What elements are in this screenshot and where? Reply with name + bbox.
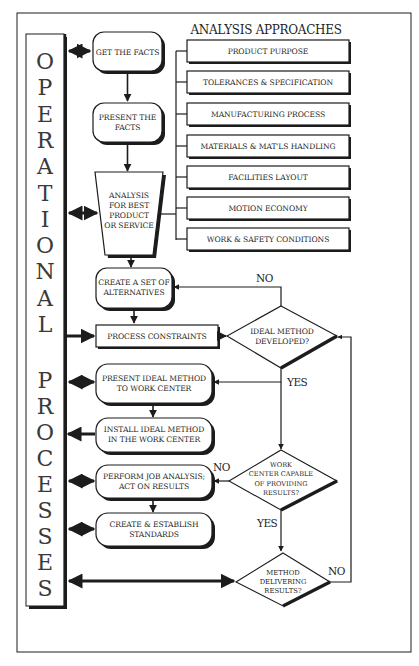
side-title-letter: L xyxy=(38,312,53,337)
present-facts-label-line1: PRESENT THE xyxy=(99,113,156,122)
side-title-letter: S xyxy=(37,576,52,601)
analysis-approaches-list: PRODUCT PURPOSETOLERANCES & SPECIFICATIO… xyxy=(176,40,351,252)
analysis-approach-item[interactable]: MANUFACTURING PROCESS xyxy=(176,103,351,127)
method-delivering-line3: RESULTS? xyxy=(264,587,302,595)
side-title-letter: P xyxy=(38,75,53,100)
get-the-facts-label: GET THE FACTS xyxy=(96,48,160,57)
work-center-line3: OF PROVIDING xyxy=(254,480,307,488)
analysis-label-line3: PRODUCT xyxy=(109,211,149,220)
work-center-yes-label: YES xyxy=(256,517,278,529)
analysis-approach-label: PRODUCT PURPOSE xyxy=(228,47,309,56)
side-title-letter: A xyxy=(36,286,54,311)
ideal-method-line2: DEVELOPED? xyxy=(255,337,309,346)
side-title-letter: O xyxy=(36,420,54,445)
side-title-letter: C xyxy=(37,446,54,471)
side-title-letter: E xyxy=(37,102,53,127)
side-title-letter: N xyxy=(35,259,54,284)
side-title-letter: E xyxy=(37,472,53,497)
decision-ideal-method-developed[interactable]: IDEAL METHOD DEVELOPED? xyxy=(227,306,337,368)
method-delivering-line1: METHOD xyxy=(266,569,300,577)
step-present-ideal-method[interactable]: PRESENT IDEAL METHOD TO WORK CENTER xyxy=(96,364,215,406)
step-install-ideal-method[interactable]: INSTALL IDEAL METHOD IN THE WORK CENTER xyxy=(96,418,215,455)
analysis-label-line4: OR SERVICE xyxy=(104,221,153,230)
analysis-approach-label: MANUFACTURING PROCESS xyxy=(211,110,325,119)
side-title-letter: P xyxy=(38,368,53,393)
work-center-line2: CENTER CAPABLE xyxy=(249,470,314,478)
decision-method-delivering-results[interactable]: METHOD DELIVERING RESULTS? xyxy=(236,553,330,606)
analysis-approach-item[interactable]: TOLERANCES & SPECIFICATION xyxy=(176,71,351,95)
no-loop-arrow xyxy=(174,287,281,306)
side-title-letter: R xyxy=(37,128,55,153)
analysis-label-line1: ANALYSIS xyxy=(108,191,149,200)
work-center-line4: RESULTS? xyxy=(263,489,300,497)
side-title-letter: R xyxy=(37,394,55,419)
step-analysis-best-product[interactable]: ANALYSIS FOR BEST PRODUCT OR SERVICE xyxy=(95,172,166,258)
step-create-alternatives[interactable]: CREATE A SET OF ALTERNATIVES xyxy=(96,268,175,311)
side-title-letter: A xyxy=(36,154,54,179)
analysis-approach-label: MATERIALS & MAT'LS HANDLING xyxy=(200,142,335,151)
analysis-approach-label: TOLERANCES & SPECIFICATION xyxy=(203,78,333,87)
analysis-approach-label: FACILITIES LAYOUT xyxy=(228,173,307,182)
perform-job-line1: PERFORM JOB ANALYSIS; xyxy=(103,472,205,481)
operational-processes-flowchart: OPERATIONALPROCESSES ANALYSIS APPROACHES… xyxy=(0,0,419,666)
step-present-the-facts[interactable]: PRESENT THE FACTS xyxy=(93,103,165,145)
ideal-method-line1: IDEAL METHOD xyxy=(250,327,314,336)
step-process-constraints[interactable]: PROCESS CONSTRAINTS xyxy=(96,325,220,349)
create-alternatives-line2: ALTERNATIVES xyxy=(102,288,164,297)
analysis-approach-item[interactable]: WORK & SAFETY CONDITIONS xyxy=(176,228,351,252)
ideal-method-no-label: NO xyxy=(256,272,274,284)
decision-work-center-capable[interactable]: WORK CENTER CAPABLE OF PROVIDING RESULTS… xyxy=(229,450,337,510)
present-facts-label-line2: FACTS xyxy=(115,123,141,132)
side-title-letter: I xyxy=(41,207,50,232)
work-center-line1: WORK xyxy=(270,461,293,469)
process-constraints-label: PROCESS CONSTRAINTS xyxy=(107,332,206,341)
method-delivering-line2: DELIVERING xyxy=(260,578,307,586)
analysis-approach-item[interactable]: FACILITIES LAYOUT xyxy=(176,166,351,190)
work-center-no-label: NO xyxy=(213,461,231,473)
present-ideal-line2: TO WORK CENTER xyxy=(117,384,192,393)
install-ideal-line2: IN THE WORK CENTER xyxy=(108,435,200,444)
side-title-letter: O xyxy=(36,233,54,258)
create-standards-line1: CREATE & ESTABLISH xyxy=(110,520,199,529)
ideal-method-yes-label: YES xyxy=(286,376,308,388)
analysis-approaches-heading: ANALYSIS APPROACHES xyxy=(189,23,341,37)
side-title-letter: E xyxy=(37,550,53,575)
side-title-letter: S xyxy=(37,524,52,549)
analysis-label-line2: FOR BEST xyxy=(109,201,149,210)
side-title-letter: T xyxy=(38,181,53,206)
step-perform-job-analysis[interactable]: PERFORM JOB ANALYSIS; ACT ON RESULTS xyxy=(96,465,215,501)
analysis-approach-item[interactable]: MOTION ECONOMY xyxy=(176,197,351,221)
method-delivering-no-label: NO xyxy=(328,565,346,577)
analysis-approach-label: WORK & SAFETY CONDITIONS xyxy=(207,235,330,244)
side-title-letters: OPERATIONALPROCESSES xyxy=(35,49,54,601)
method-delivering-no-loop xyxy=(330,337,351,582)
step-get-the-facts[interactable]: GET THE FACTS xyxy=(93,32,165,74)
create-alternatives-line1: CREATE A SET OF xyxy=(98,278,169,287)
side-title-letter: O xyxy=(36,49,54,74)
install-ideal-line1: INSTALL IDEAL METHOD xyxy=(104,425,204,434)
present-ideal-line1: PRESENT IDEAL METHOD xyxy=(102,374,206,383)
side-title-letter: S xyxy=(37,498,52,523)
analysis-approach-label: MOTION ECONOMY xyxy=(228,204,308,213)
analysis-approach-item[interactable]: MATERIALS & MAT'LS HANDLING xyxy=(176,135,351,159)
analysis-approach-item[interactable]: PRODUCT PURPOSE xyxy=(176,40,351,64)
create-standards-line2: STANDARDS xyxy=(129,530,179,539)
yes-arrow xyxy=(214,368,281,382)
perform-job-line2: ACT ON RESULTS xyxy=(118,482,189,491)
step-create-establish-standards[interactable]: CREATE & ESTABLISH STANDARDS xyxy=(96,513,215,549)
